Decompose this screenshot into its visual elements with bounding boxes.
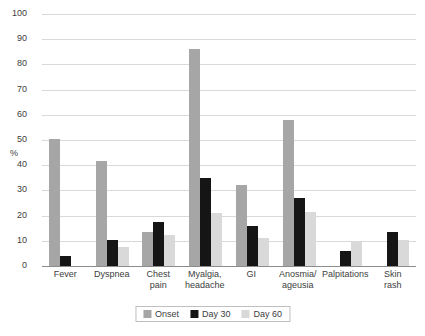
bar-slot: [340, 14, 351, 266]
x-axis-label-line: Myalgia,: [183, 269, 228, 280]
chart-legend: OnsetDay 30Day 60: [135, 306, 290, 322]
plot-area: 1009080706050403020100: [42, 14, 416, 266]
legend-swatch-icon: [242, 310, 250, 318]
x-axis-label-line: Fever: [43, 269, 88, 280]
bar-slot: [247, 14, 258, 266]
bar-day30[interactable]: [294, 198, 305, 266]
gridline-0: [42, 266, 416, 267]
bar-slot: [60, 14, 71, 266]
x-axis-label-line: Chest: [136, 269, 181, 280]
legend-label: Day 60: [254, 309, 283, 319]
bar-onset[interactable]: [283, 120, 294, 266]
bar-slot: [96, 14, 107, 266]
y-tick-label-40: 40: [0, 160, 27, 169]
bar-slot: [398, 14, 409, 266]
x-axis-category-labels: FeverDyspneaChestpainMyalgia,headacheGIA…: [42, 269, 416, 303]
bar-day30[interactable]: [107, 240, 118, 266]
bar-slot: [189, 14, 200, 266]
y-tick-label-70: 70: [0, 85, 27, 94]
legend-item-onset[interactable]: Onset: [143, 309, 179, 319]
bars-layer: [42, 14, 416, 266]
bar-slot: [164, 14, 175, 266]
bar-slot: [258, 14, 269, 266]
bar-day60[interactable]: [258, 238, 269, 266]
y-tick-label-60: 60: [0, 110, 27, 119]
legend-item-day-60[interactable]: Day 60: [242, 309, 283, 319]
y-tick-label-100: 100: [0, 9, 27, 18]
y-tick-label-10: 10: [0, 236, 27, 245]
x-axis-label-line: Dyspnea: [90, 269, 135, 280]
bar-slot: [351, 14, 362, 266]
bar-day60[interactable]: [398, 240, 409, 266]
y-tick-label-20: 20: [0, 211, 27, 220]
bar-onset[interactable]: [96, 161, 107, 266]
bar-group: [89, 14, 136, 266]
bar-slot: [153, 14, 164, 266]
bar-slot: [283, 14, 294, 266]
bar-slot: [236, 14, 247, 266]
bar-onset[interactable]: [142, 232, 153, 266]
bar-slot: [71, 14, 82, 266]
bar-slot: [305, 14, 316, 266]
x-axis-label-line: ageusia: [276, 280, 321, 291]
y-tick-label-30: 30: [0, 185, 27, 194]
x-axis-label-line: headache: [183, 280, 228, 291]
legend-item-day-30[interactable]: Day 30: [190, 309, 231, 319]
x-axis-label-0: Fever: [42, 269, 89, 303]
bar-day60[interactable]: [305, 212, 316, 266]
bar-day30[interactable]: [200, 178, 211, 266]
bar-slot: [49, 14, 60, 266]
bar-slot: [211, 14, 222, 266]
legend-label: Onset: [155, 309, 179, 319]
x-axis-label-1: Dyspnea: [89, 269, 136, 303]
bar-day30[interactable]: [340, 251, 351, 266]
y-tick-label-0: 0: [0, 261, 27, 270]
x-axis-label-line: pain: [136, 280, 181, 291]
bar-onset[interactable]: [236, 185, 247, 266]
bar-group: [42, 14, 89, 266]
bar-onset[interactable]: [49, 139, 60, 266]
y-tick-label-80: 80: [0, 59, 27, 68]
bar-onset[interactable]: [189, 49, 200, 266]
bar-slot: [142, 14, 153, 266]
y-tick-label-50: 50: [0, 135, 27, 144]
x-axis-label-2: Chestpain: [135, 269, 182, 303]
bar-day60[interactable]: [351, 242, 362, 266]
x-axis-label-line: rash: [371, 280, 416, 291]
bar-slot: [329, 14, 340, 266]
bar-slot: [294, 14, 305, 266]
bar-chart: % 1009080706050403020100 FeverDyspneaChe…: [0, 0, 425, 336]
bar-group: [182, 14, 229, 266]
x-axis-label-6: Palpitations: [321, 269, 370, 303]
x-axis-label-3: Myalgia,headache: [182, 269, 229, 303]
bar-slot: [387, 14, 398, 266]
bar-day30[interactable]: [387, 232, 398, 266]
bar-slot: [200, 14, 211, 266]
x-axis-label-line: Palpitations: [322, 269, 369, 280]
y-axis-title: %: [6, 148, 22, 159]
x-axis-label-line: GI: [229, 269, 274, 280]
bar-slot: [118, 14, 129, 266]
x-axis-label-line: Skin: [371, 269, 416, 280]
x-axis-label-line: Anosmia/: [276, 269, 321, 280]
bar-group: [276, 14, 323, 266]
bar-day60[interactable]: [211, 213, 222, 266]
y-tick-label-90: 90: [0, 34, 27, 43]
bar-day60[interactable]: [118, 247, 129, 266]
x-axis-label-5: Anosmia/ageusia: [275, 269, 322, 303]
bar-day60[interactable]: [164, 235, 175, 267]
bar-day30[interactable]: [247, 226, 258, 266]
bar-slot: [376, 14, 387, 266]
x-axis-label-4: GI: [228, 269, 275, 303]
legend-label: Day 30: [202, 309, 231, 319]
bar-slot: [107, 14, 118, 266]
bar-group: [136, 14, 183, 266]
legend-swatch-icon: [143, 310, 151, 318]
bar-group: [323, 14, 370, 266]
legend-swatch-icon: [190, 310, 198, 318]
bar-day30[interactable]: [60, 256, 71, 266]
x-axis-label-7: Skinrash: [370, 269, 417, 303]
bar-day30[interactable]: [153, 222, 164, 266]
bar-group: [369, 14, 416, 266]
bar-group: [229, 14, 276, 266]
